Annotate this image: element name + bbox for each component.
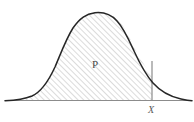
x-axis-point-label: X [147,104,155,115]
probability-label: P [92,58,98,70]
normal-curve-figure: P X [0,0,194,122]
figure-canvas: P X [0,0,194,122]
